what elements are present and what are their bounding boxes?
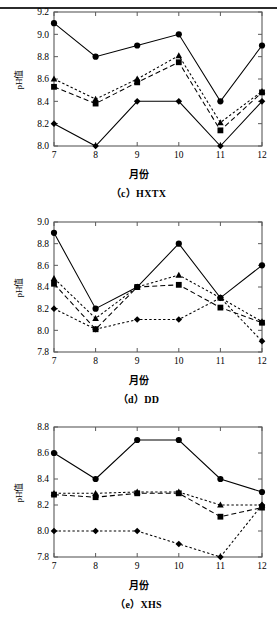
data-point-square [218, 127, 224, 133]
chart-d: 7.88.08.28.48.68.89.0789101112 [0, 214, 277, 374]
plot-frame [54, 427, 262, 557]
data-point-square [93, 494, 99, 500]
y-tick-label: 7.8 [37, 552, 49, 562]
data-point-circle [176, 31, 182, 37]
data-point-square [134, 79, 140, 85]
y-tick-label: 8.2 [37, 500, 49, 510]
x-tick-label: 8 [93, 561, 98, 571]
data-point-circle [259, 42, 265, 48]
series-diamond [51, 502, 266, 561]
y-axis-label-e: pH值 [12, 483, 25, 503]
data-point-diamond [92, 528, 99, 535]
series-line-diamond [54, 101, 262, 146]
plot-area-d: 7.88.08.28.48.68.89.0789101112 pH值 [0, 214, 277, 374]
series-triangle [51, 272, 266, 325]
series-line-circle [54, 23, 262, 101]
data-point-triangle [92, 315, 99, 321]
data-point-square [134, 284, 140, 290]
figure-panel-c: 8.08.28.48.68.89.09.2789101112 pH值 月份 （c… [0, 0, 277, 214]
y-tick-label: 7.8 [37, 347, 49, 357]
y-tick-label: 8.6 [37, 448, 49, 458]
y-tick-label: 8.8 [37, 422, 49, 432]
data-point-diamond [134, 316, 141, 323]
series-square [51, 59, 265, 133]
x-axis-label-c: 月份 [0, 166, 277, 181]
x-tick-label: 9 [135, 150, 140, 160]
data-point-diamond [176, 316, 183, 323]
data-point-circle [93, 54, 99, 60]
x-tick-label: 10 [174, 356, 184, 366]
y-tick-label: 8.2 [37, 119, 49, 129]
series-line-circle [54, 233, 262, 309]
series-circle [51, 437, 265, 495]
x-tick-label: 11 [216, 150, 225, 160]
x-axis-label-d: 月份 [0, 372, 277, 387]
y-axis-label-d: pH值 [12, 278, 25, 298]
x-tick-label: 10 [174, 561, 184, 571]
series-circle [51, 20, 265, 104]
data-point-square [218, 514, 224, 520]
figure-panel-d: 7.88.08.28.48.68.89.0789101112 pH值 月份 （d… [0, 214, 277, 419]
data-point-diamond [259, 338, 266, 345]
x-tick-label: 10 [174, 150, 184, 160]
data-point-square [51, 492, 57, 498]
data-point-diamond [176, 541, 183, 548]
data-point-square [176, 282, 182, 288]
data-point-triangle [176, 272, 183, 278]
data-point-square [218, 305, 224, 311]
y-axis-label-c: pH值 [12, 70, 25, 90]
x-tick-label: 7 [52, 561, 57, 571]
caption-c: （c）HXTX [0, 185, 277, 200]
y-tick-label: 8.2 [37, 304, 49, 314]
x-tick-label: 7 [52, 356, 57, 366]
data-point-circle [51, 230, 57, 236]
y-tick-label: 8.6 [37, 74, 49, 84]
data-point-square [176, 59, 182, 65]
series-triangle [51, 489, 266, 508]
data-point-square [93, 101, 99, 107]
data-point-circle [217, 476, 223, 482]
y-tick-label: 8.4 [37, 97, 49, 107]
data-point-square [259, 320, 265, 326]
y-tick-label: 8.0 [37, 141, 49, 151]
data-point-square [51, 281, 57, 287]
data-point-circle [176, 241, 182, 247]
figure-panel-e: 7.88.08.28.48.68.8789101112 pH值 月份 （e）XH… [0, 419, 277, 624]
caption-e: （e）XHS [0, 596, 277, 611]
x-tick-label: 11 [216, 356, 225, 366]
plot-frame [54, 222, 262, 352]
chart-e: 7.88.08.28.48.68.8789101112 [0, 419, 277, 579]
data-point-square [134, 490, 140, 496]
data-point-circle [51, 20, 57, 26]
x-tick-label: 8 [93, 150, 98, 160]
plot-area-e: 7.88.08.28.48.68.8789101112 pH值 [0, 419, 277, 579]
plot-area-c: 8.08.28.48.68.89.09.2789101112 pH值 [0, 0, 277, 168]
plot-frame [54, 12, 262, 146]
data-point-triangle [176, 52, 183, 58]
series-line-square [54, 493, 262, 516]
x-tick-label: 9 [135, 561, 140, 571]
y-tick-label: 8.8 [37, 239, 49, 249]
y-tick-label: 8.6 [37, 261, 49, 271]
series-diamond [51, 295, 266, 345]
data-point-triangle [51, 275, 58, 281]
data-point-circle [217, 98, 223, 104]
data-point-diamond [134, 528, 141, 535]
data-point-square [51, 84, 57, 90]
x-tick-label: 12 [257, 150, 267, 160]
series-line-diamond [54, 505, 262, 557]
series-triangle [51, 52, 266, 125]
data-point-triangle [217, 119, 224, 125]
x-tick-label: 7 [52, 150, 57, 160]
y-tick-label: 8.8 [37, 52, 49, 62]
data-point-diamond [217, 554, 224, 561]
data-point-circle [259, 262, 265, 268]
series-line-square [54, 62, 262, 130]
data-point-circle [93, 476, 99, 482]
x-tick-label: 12 [257, 356, 267, 366]
x-tick-label: 9 [135, 356, 140, 366]
series-line-circle [54, 440, 262, 492]
data-point-circle [134, 437, 140, 443]
y-tick-label: 8.4 [37, 282, 49, 292]
series-line-triangle [54, 275, 262, 322]
